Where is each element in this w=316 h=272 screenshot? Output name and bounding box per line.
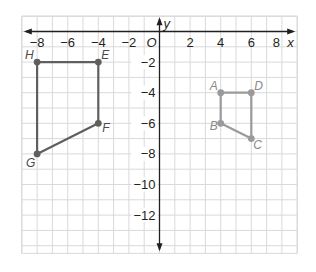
x-tick-label: 8: [273, 35, 280, 50]
point-h: [34, 59, 41, 66]
y-axis-label: y: [163, 16, 172, 31]
x-tick-label: 2: [186, 35, 193, 50]
point-label-b: B: [210, 119, 218, 133]
y-tick-label: −10: [133, 177, 155, 192]
x-axis-label: x: [286, 35, 294, 50]
point-f: [95, 120, 102, 127]
y-tick-label: −6: [141, 116, 156, 131]
axes: [24, 17, 295, 251]
y-tick-label: −2: [141, 55, 156, 70]
point-label-h: H: [25, 48, 34, 62]
point-label-a: A: [209, 79, 218, 93]
y-tick-label: −8: [141, 146, 156, 161]
graph-canvas: xyO−8−6−4−22468−2−4−6−8−10−12 ABCDEFGH: [0, 0, 316, 272]
point-label-d: D: [254, 79, 263, 93]
origin-label: O: [147, 35, 157, 50]
point-label-e: E: [101, 48, 110, 62]
point-a: [217, 89, 224, 96]
y-axis-up-arrow-icon: [157, 17, 163, 25]
point-label-f: F: [102, 121, 110, 135]
x-tick-label: −2: [121, 35, 136, 50]
y-axis-down-arrow-icon: [157, 243, 163, 251]
x-tick-label: −6: [60, 35, 75, 50]
y-tick-label: −4: [141, 85, 156, 100]
point-label-c: C: [253, 138, 262, 152]
point-label-g: G: [26, 156, 35, 170]
x-tick-label: 6: [248, 35, 255, 50]
coordinate-plane: xyO−8−6−4−22468−2−4−6−8−10−12 ABCDEFGH: [0, 0, 316, 272]
y-tick-label: −12: [133, 208, 155, 223]
x-tick-label: 4: [217, 35, 224, 50]
point-b: [217, 120, 224, 127]
